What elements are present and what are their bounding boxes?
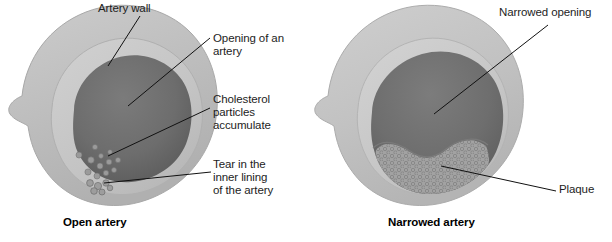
diagram-canvas: Artery wall Opening of an artery Cholest…	[0, 0, 612, 242]
panel-open-artery: Artery wall Opening of an artery Cholest…	[0, 0, 306, 242]
label-tear-in-inner-lining: Tear in the inner lining of the artery	[213, 158, 273, 198]
label-opening-of-an-artery: Opening of an artery	[213, 32, 284, 58]
label-artery-wall: Artery wall	[98, 2, 151, 15]
caption-narrowed-artery: Narrowed artery	[388, 216, 475, 228]
label-plaque: Plaque	[559, 183, 594, 196]
label-cholesterol-particles-accumulate: Cholesterol particles accumulate	[213, 93, 271, 133]
caption-open-artery: Open artery	[63, 216, 126, 228]
narrowed-artery-illustration	[306, 0, 612, 242]
panel-narrowed-artery: Narrowed opening Plaque Narrowed artery	[306, 0, 612, 242]
label-narrowed-opening: Narrowed opening	[499, 6, 591, 19]
